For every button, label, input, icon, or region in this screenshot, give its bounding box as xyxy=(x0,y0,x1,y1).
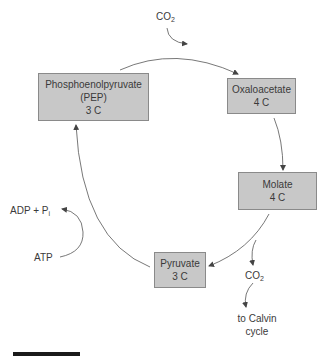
arrow-pyruvate-to-pep xyxy=(76,125,150,267)
node-oxaloacetate-carbons: 4 C xyxy=(254,96,270,109)
arrow-co2-out xyxy=(252,240,256,265)
label-adp-pi: ADP + Pi xyxy=(10,204,50,217)
node-pep-abbr: (PEP) xyxy=(80,91,107,104)
arrow-pep-to-oxaloacetate xyxy=(120,58,238,74)
node-pyruvate: Pyruvate 3 C xyxy=(154,252,206,288)
label-co2-out: CO2 xyxy=(245,269,264,282)
node-molate: Molate 4 C xyxy=(238,172,317,210)
label-to-calvin: to Calvin cycle xyxy=(230,312,284,338)
node-pep-name: Phosphoenolpyruvate xyxy=(45,78,142,91)
node-pep: Phosphoenolpyruvate (PEP) 3 C xyxy=(38,73,149,121)
label-to-calvin-line1: to Calvin xyxy=(230,312,284,325)
node-molate-carbons: 4 C xyxy=(270,191,286,204)
label-atp: ATP xyxy=(34,251,53,264)
node-pyruvate-carbons: 3 C xyxy=(172,270,188,283)
arrow-molate-to-pyruvate xyxy=(209,214,269,266)
node-pyruvate-name: Pyruvate xyxy=(160,257,199,270)
arrow-to-calvin xyxy=(245,283,253,307)
label-co2-in: CO2 xyxy=(156,10,175,23)
label-to-calvin-line2: cycle xyxy=(230,325,284,338)
arrow-oxaloacetate-to-molate xyxy=(274,118,283,170)
arrow-co2-in xyxy=(167,28,187,44)
node-oxaloacetate: Oxaloacetate 4 C xyxy=(227,78,296,114)
caption-bar xyxy=(13,352,80,356)
node-molate-name: Molate xyxy=(262,178,292,191)
node-oxaloacetate-name: Oxaloacetate xyxy=(232,83,291,96)
arrow-atp-to-adp xyxy=(60,209,83,257)
node-pep-carbons: 3 C xyxy=(86,104,102,117)
